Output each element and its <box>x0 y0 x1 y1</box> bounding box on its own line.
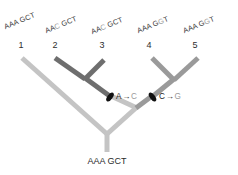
branch-node23-to-tip2 <box>55 58 85 79</box>
branch-rightclade-to-nodeCG <box>136 96 152 108</box>
branch-node23-to-tip3 <box>85 60 104 79</box>
tip-number-4: 4 <box>142 40 156 50</box>
tip-number-2: 2 <box>48 40 62 50</box>
phylogenetic-tree-figure: AAA GCT AAC GCT AAC GCT AAA GGT AAA GGT … <box>0 0 238 175</box>
tip-number-3: 3 <box>95 40 109 50</box>
mutation-1-arrow-icon: → <box>122 92 131 101</box>
mutation-label-c-to-g: C→G <box>159 92 181 101</box>
root-sequence-label: AAA GCT <box>74 156 140 166</box>
branch-root-to-right-clade <box>107 107 137 134</box>
branch-nodeAC-stem <box>85 78 111 97</box>
mutation-2-arrow-icon: → <box>165 92 174 101</box>
tip-number-1: 1 <box>14 40 28 50</box>
mutation-1-from: A <box>116 92 122 101</box>
branch-node45-to-tip4 <box>152 58 174 80</box>
mutation-1-to: C <box>131 92 137 101</box>
tip-number-5: 5 <box>188 40 202 50</box>
mutation-2-to: G <box>175 92 182 101</box>
branch-node45-to-tip5 <box>174 58 198 80</box>
mutation-label-a-to-c: A→C <box>116 92 137 101</box>
